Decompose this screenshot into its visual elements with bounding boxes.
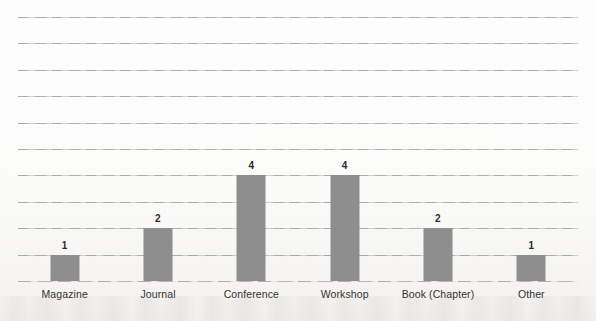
x-axis-label: Workshop (298, 288, 391, 300)
bar-slot: 4 (205, 17, 298, 281)
x-axis-label: Magazine (18, 288, 111, 300)
bar[interactable] (423, 228, 452, 281)
bar-slot: 1 (18, 17, 111, 281)
bar-slot: 4 (298, 17, 391, 281)
bar-value-label: 4 (342, 160, 348, 171)
bar[interactable] (237, 175, 266, 281)
bar[interactable] (330, 175, 359, 281)
bar-slot: 2 (391, 17, 484, 281)
bars-group: 124421 (18, 17, 578, 281)
x-axis-label: Book (Chapter) (391, 288, 484, 300)
x-axis-label: Journal (111, 288, 204, 300)
bar-value-label: 2 (435, 213, 441, 224)
bar[interactable] (143, 228, 172, 281)
bar-slot: 2 (111, 17, 204, 281)
x-axis-label: Conference (205, 288, 298, 300)
x-axis-line (18, 281, 578, 282)
x-axis-label: Other (485, 288, 578, 300)
bar[interactable] (50, 255, 79, 281)
bar-value-label: 1 (528, 240, 534, 251)
x-axis-labels-group: MagazineJournalConferenceWorkshopBook (C… (18, 288, 578, 310)
bar-slot: 1 (485, 17, 578, 281)
bar[interactable] (517, 255, 546, 281)
bar-value-label: 4 (248, 160, 254, 171)
bar-value-label: 2 (155, 213, 161, 224)
bar-value-label: 1 (62, 240, 68, 251)
bar-chart-figure: 124421 MagazineJournalConferenceWorkshop… (0, 0, 596, 321)
